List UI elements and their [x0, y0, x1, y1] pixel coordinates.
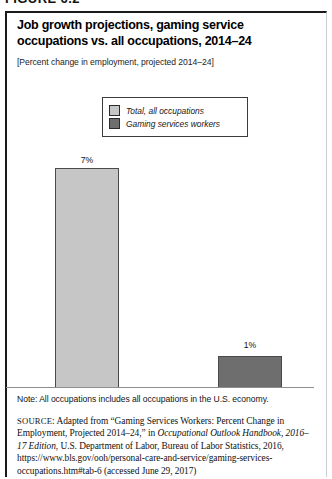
figure-note: Note: All occupations includes all occup…	[17, 394, 313, 404]
bar-value-label-gaming: 1%	[218, 340, 282, 350]
chart-baseline	[6, 387, 314, 388]
figure-source: SOURCE: Adapted from “Gaming Services Wo…	[17, 415, 313, 477]
source-prefix: SOURCE	[17, 416, 52, 426]
figure-title: Job growth projections, gaming service o…	[17, 18, 307, 49]
figure-number: FIGURE 6.2	[5, 0, 205, 5]
legend-label: Total, all occupations	[126, 106, 204, 116]
legend-label: Gaming services workers	[126, 119, 220, 129]
chart-plot-area: Total, all occupations Gaming services w…	[6, 78, 326, 388]
source-text-part2: , U.S. Department of Labor, Bureau of La…	[17, 441, 284, 476]
legend-item-gaming-services-workers: Gaming services workers	[109, 118, 240, 129]
legend-swatch-icon	[109, 118, 120, 129]
bar-gaming-services-workers	[218, 356, 282, 388]
legend-swatch-icon	[109, 105, 120, 116]
legend-item-total-all-occupations: Total, all occupations	[109, 105, 240, 116]
bar-total-all-occupations	[55, 168, 119, 388]
bar-value-label-total: 7%	[55, 155, 119, 165]
chart-legend: Total, all occupations Gaming services w…	[102, 97, 248, 137]
figure-subtitle: [Percent change in employment, projected…	[17, 57, 307, 67]
